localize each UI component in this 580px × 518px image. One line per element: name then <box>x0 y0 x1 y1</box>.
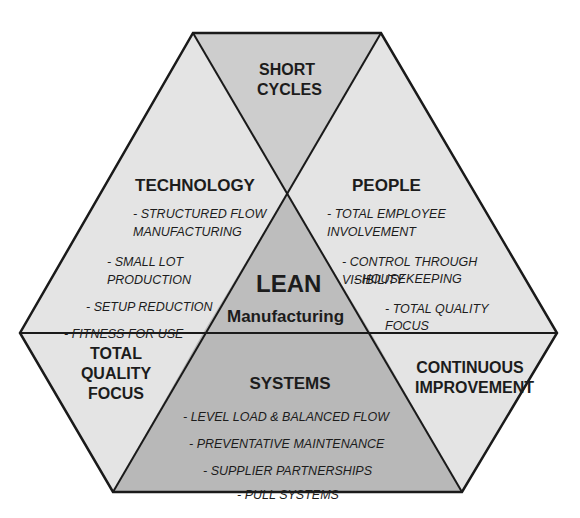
technology-item-1: - STRUCTURED FLOW <box>133 206 266 222</box>
people-item-4b: FOCUS <box>385 318 429 334</box>
short-cycles-line2: CYCLES <box>257 80 317 100</box>
technology-heading: TECHNOLOGY <box>135 176 255 196</box>
systems-item-4: - PULL SYSTEMS <box>237 487 339 503</box>
short-cycles-line1: SHORT <box>257 60 317 80</box>
technology-item-1b: MANUFACTURING <box>133 224 242 240</box>
systems-item-2: - PREVENTATIVE MAINTENANCE <box>189 436 384 452</box>
people-heading: PEOPLE <box>352 176 421 196</box>
lean-hexagon-diagram: SHORT CYCLES TECHNOLOGY - STRUCTURED FLO… <box>0 0 580 518</box>
continuous-improvement-label: CONTINUOUS IMPROVEMENT <box>415 358 525 398</box>
technology-item-4: - FITNESS FOR USE <box>64 326 183 342</box>
systems-item-3: - SUPPLIER PARTNERSHIPS <box>203 463 372 479</box>
short-cycles-label: SHORT CYCLES <box>257 60 317 100</box>
ci-line2: IMPROVEMENT <box>415 378 525 398</box>
people-item-2: - CONTROL THROUGH <box>342 254 477 270</box>
systems-heading: SYSTEMS <box>240 374 340 394</box>
people-item-4: - TOTAL QUALITY <box>385 301 489 317</box>
people-item-1: - TOTAL EMPLOYEE <box>327 206 446 222</box>
people-item-1b: INVOLVEMENT <box>327 224 416 240</box>
ci-line1: CONTINUOUS <box>415 358 525 378</box>
technology-item-2b: PRODUCTION <box>107 272 191 288</box>
technology-item-3: - SETUP REDUCTION <box>86 299 213 315</box>
total-quality-focus-label: TOTAL QUALITY FOCUS <box>76 344 156 404</box>
tqf-line3: FOCUS <box>76 384 156 404</box>
lean-subtitle: Manufacturing <box>227 307 344 327</box>
people-item-3: - HOUSEKEEPING <box>354 271 462 287</box>
lean-title: LEAN <box>256 270 321 298</box>
technology-item-2: - SMALL LOT <box>107 254 183 270</box>
systems-item-1: - LEVEL LOAD & BALANCED FLOW <box>183 409 389 425</box>
tqf-line2: QUALITY <box>76 364 156 384</box>
tqf-line1: TOTAL <box>76 344 156 364</box>
